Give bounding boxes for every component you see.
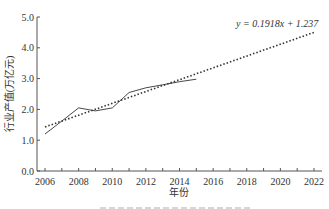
x-axis-ticks: 200620082010201220142016201820202022 xyxy=(35,168,324,187)
y-tick-label: 3.0 xyxy=(22,73,35,84)
x-tick-label: 2018 xyxy=(237,176,257,187)
y-tick-label: 2.0 xyxy=(22,104,35,115)
y-tick-label: 0.0 xyxy=(22,166,35,177)
y-tick-label: 4.0 xyxy=(22,42,35,53)
trend-equation: y = 0.1918x + 1.237 xyxy=(235,18,319,29)
x-tick-label: 2012 xyxy=(136,176,156,187)
actual-line xyxy=(45,79,196,134)
y-tick-label: 1.0 xyxy=(22,135,35,146)
y-axis-title: 行业产值(万亿元) xyxy=(3,56,16,133)
figure-caption-cropped xyxy=(100,205,250,209)
x-tick-label: 2014 xyxy=(170,176,190,187)
x-tick-label: 2022 xyxy=(304,176,324,187)
x-tick-label: 2016 xyxy=(203,176,223,187)
x-axis-title: 年份 xyxy=(169,186,189,198)
x-tick-label: 2008 xyxy=(69,176,89,187)
axes xyxy=(37,17,322,171)
trend-line xyxy=(45,32,314,127)
x-tick-label: 2010 xyxy=(102,176,122,187)
trend-chart: 0.01.02.03.04.05.0 200620082010201220142… xyxy=(0,0,329,209)
x-tick-label: 2006 xyxy=(35,176,55,187)
series-group xyxy=(45,32,314,134)
x-tick-label: 2020 xyxy=(270,176,290,187)
y-tick-label: 5.0 xyxy=(22,12,35,23)
